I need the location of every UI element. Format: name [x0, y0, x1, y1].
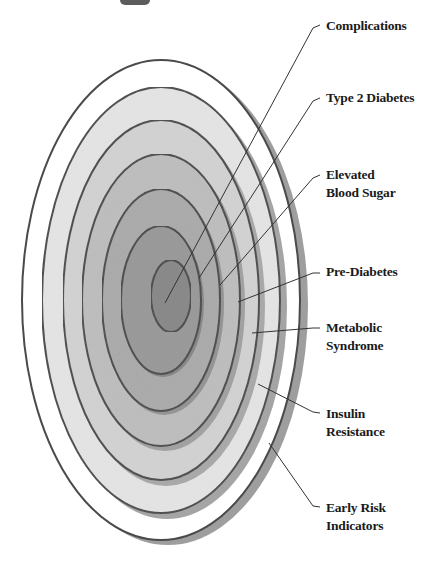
label-line: Pre-Diabetes: [326, 263, 398, 281]
label-pre-diabetes: Pre-Diabetes: [326, 263, 398, 281]
ring-complications: [151, 260, 191, 332]
label-line: Type 2 Diabetes: [326, 89, 414, 107]
label-elevated-blood-sugar: Elevated Blood Sugar: [326, 166, 395, 202]
label-line: Blood Sugar: [326, 184, 395, 202]
concentric-ellipse-diagram: [0, 0, 436, 565]
label-line: Elevated: [326, 166, 395, 184]
label-line: Resistance: [326, 423, 385, 441]
label-early-risk-indicators: Early Risk Indicators: [326, 499, 386, 535]
label-type-2-diabetes: Type 2 Diabetes: [326, 89, 414, 107]
label-line: Indicators: [326, 517, 386, 535]
label-metabolic-syndrome: Metabolic Syndrome: [326, 319, 383, 355]
label-line: Syndrome: [326, 337, 383, 355]
label-line: Metabolic: [326, 319, 383, 337]
label-complications: Complications: [326, 17, 407, 35]
label-insulin-resistance: Insulin Resistance: [326, 405, 385, 441]
label-line: Early Risk: [326, 499, 386, 517]
label-line: Complications: [326, 17, 407, 35]
label-line: Insulin: [326, 405, 385, 423]
